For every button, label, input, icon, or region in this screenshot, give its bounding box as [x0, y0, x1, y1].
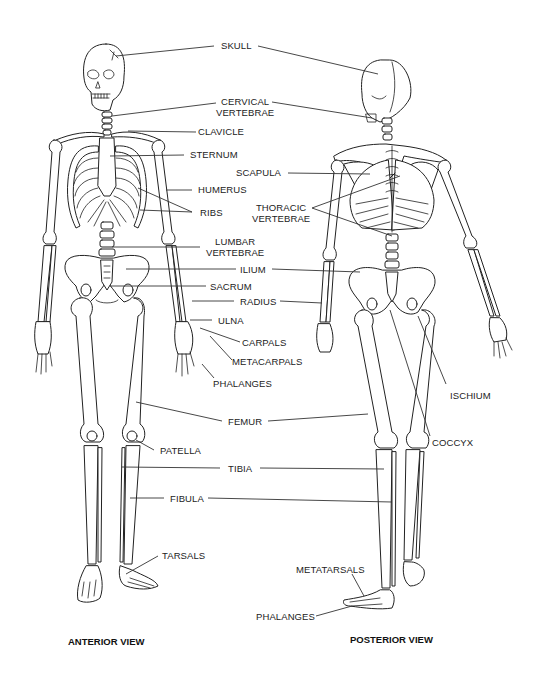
- label-tarsals: TARSALS: [162, 550, 205, 561]
- posterior-arm-left: [317, 160, 344, 352]
- label-ulna: ULNA: [218, 315, 244, 326]
- label-skull: SKULL: [221, 40, 252, 51]
- label-femur: FEMUR: [228, 416, 262, 427]
- label-ilium: ILIUM: [240, 264, 266, 275]
- posterior-femur-left: [355, 310, 398, 448]
- anterior-view-caption: ANTERIOR VIEW: [68, 636, 145, 647]
- label-cervical-line2: VERTEBRAE: [216, 107, 274, 118]
- label-lumbar-vertebrae: LUMBAR VERTEBRAE: [206, 236, 264, 258]
- label-thoracic-vertebrae: THORACIC VERTEBRAE: [252, 202, 310, 224]
- label-phalanges-foot: PHALANGES: [256, 611, 315, 622]
- label-lumbar-line1: LUMBAR: [206, 236, 264, 247]
- anterior-cervical-spine: [102, 112, 112, 135]
- label-scapula: SCAPULA: [236, 167, 281, 178]
- label-coccyx: COCCYX: [432, 437, 473, 448]
- posterior-foot-right: [403, 562, 424, 586]
- posterior-skull: [362, 60, 411, 122]
- label-thoracic-line2: VERTEBRAE: [252, 213, 310, 224]
- label-patella: PATELLA: [160, 445, 201, 456]
- anterior-patella-right: [127, 431, 137, 441]
- label-ribs: RIBS: [200, 207, 223, 218]
- anterior-lumbar-spine: [99, 222, 115, 256]
- label-lumbar-line2: VERTEBRAE: [206, 247, 264, 258]
- skeleton-diagram: SKULL CERVICAL VERTEBRAE CLAVICLE STERNU…: [0, 0, 544, 674]
- posterior-arm-right: [438, 160, 512, 358]
- label-thoracic-line1: THORACIC: [252, 202, 310, 213]
- label-clavicle: CLAVICLE: [198, 126, 244, 137]
- anterior-femur-right: [122, 298, 144, 442]
- anterior-patella-left: [87, 431, 97, 441]
- label-carpals: CARPALS: [242, 337, 286, 348]
- label-phalanges-hand: PHALANGES: [213, 378, 272, 389]
- label-fibula: FIBULA: [170, 493, 204, 504]
- anterior-femur-left: [71, 298, 104, 442]
- label-ischium: ISCHIUM: [450, 390, 491, 401]
- posterior-pelvis: [349, 268, 435, 315]
- anterior-arm-left: [35, 140, 62, 374]
- posterior-view-caption: POSTERIOR VIEW: [350, 634, 433, 645]
- label-radius: RADIUS: [240, 296, 277, 307]
- label-sternum: STERNUM: [190, 149, 238, 160]
- anterior-skeleton: [35, 44, 194, 602]
- anterior-pelvis: [65, 255, 149, 303]
- label-tibia: TIBIA: [228, 463, 252, 474]
- label-cervical-vertebrae: CERVICAL VERTEBRAE: [216, 96, 274, 118]
- anterior-arm-right: [152, 140, 194, 376]
- label-sacrum: SACRUM: [210, 281, 252, 292]
- label-humerus: HUMERUS: [198, 184, 247, 195]
- posterior-skeleton: [317, 60, 512, 609]
- posterior-femur-right: [406, 310, 435, 448]
- label-metacarpals: METACARPALS: [232, 356, 302, 367]
- label-cervical-line1: CERVICAL: [216, 96, 274, 107]
- anterior-skull: [84, 44, 125, 111]
- label-metatarsals: METATARSALS: [296, 564, 365, 575]
- posterior-cervical-spine: [382, 118, 392, 140]
